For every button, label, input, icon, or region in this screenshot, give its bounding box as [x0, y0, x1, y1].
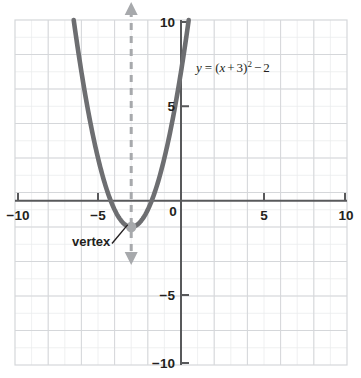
equation-two: 2 [263, 60, 270, 75]
vertex-label: vertex [72, 234, 111, 249]
x-tick-label-zero: 0 [169, 204, 177, 219]
y-tick-label-5: 5 [167, 99, 175, 114]
equation-plus: + [227, 60, 234, 75]
x-tick-label-5: 5 [260, 208, 268, 223]
x-tick-label-neg10: −10 [7, 208, 30, 223]
equation-lhs: y [194, 60, 202, 75]
equation-exponent: 2 [247, 59, 252, 69]
y-tick-label-neg10: −10 [152, 356, 175, 371]
svg-text:y=(x+3)2−2: y=(x+3)2−2 [194, 59, 270, 75]
y-tick-label-neg5: −5 [160, 288, 176, 303]
arrow-up-icon [125, 2, 138, 15]
graph-svg: vertex y=(x+3)2−2 −10 −5 0 5 10 10 5 −5 … [0, 0, 361, 378]
equation-var: x [218, 60, 225, 75]
parabola-graph-figure: vertex y=(x+3)2−2 −10 −5 0 5 10 10 5 −5 … [0, 0, 361, 378]
equation-label: y=(x+3)2−2 [194, 59, 270, 75]
equation-eq: = [205, 60, 212, 75]
vertex-point-marker [126, 222, 136, 232]
y-tick-label-10: 10 [160, 15, 175, 30]
x-tick-label-neg5: −5 [90, 208, 106, 223]
x-tick-label-10: 10 [338, 208, 353, 223]
equation-minus: − [254, 60, 261, 75]
